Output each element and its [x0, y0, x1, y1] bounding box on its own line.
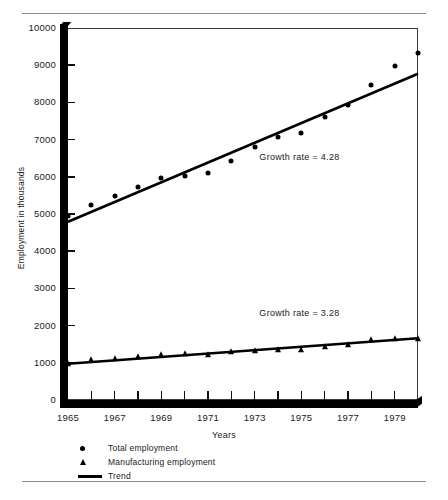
y-axis-title: Employment in thousands — [16, 158, 26, 278]
data-point-total-employment — [66, 213, 71, 218]
x-tick-mark — [161, 391, 163, 400]
y-tick-label: 5000 — [0, 208, 56, 220]
y-tick-label-text: 9000 — [6, 59, 56, 70]
data-point-manufacturing-employment — [298, 346, 304, 352]
legend-item: Trend — [78, 469, 338, 483]
x-tick-label: 1965 — [57, 412, 79, 423]
legend-key-circle — [78, 446, 108, 451]
x-tick-label: 1967 — [104, 412, 126, 423]
x-tick-label: 1977 — [337, 412, 359, 423]
y-tick-label-text: 10000 — [6, 22, 56, 33]
x-axis-bar — [60, 400, 418, 408]
y-tick-label-text: 3000 — [6, 282, 56, 293]
data-point-manufacturing-employment — [135, 353, 141, 359]
x-tick-mark — [137, 391, 139, 400]
y-tick-label: 7000 — [0, 134, 56, 146]
legend-item: Total employment — [78, 441, 338, 455]
data-point-manufacturing-employment — [368, 337, 374, 343]
data-point-manufacturing-employment — [322, 343, 328, 349]
data-point-total-employment — [252, 145, 257, 150]
data-point-manufacturing-employment — [205, 351, 211, 357]
data-point-total-employment — [206, 170, 211, 175]
y-tick-label: 3000 — [0, 282, 56, 294]
legend-triangle-marker-icon — [80, 459, 86, 465]
y-tick-label: 4000 — [0, 245, 56, 257]
x-tick-mark — [347, 391, 349, 400]
y-tick-label-text: 4000 — [6, 245, 56, 256]
y-tick-mark — [68, 64, 75, 66]
y-tick-mark — [68, 176, 75, 178]
x-tick-mark — [184, 391, 186, 400]
chart-legend: Total employmentManufacturing employment… — [78, 441, 338, 483]
plot-area-frame — [66, 28, 418, 400]
data-point-total-employment — [299, 131, 304, 136]
x-tick-mark — [254, 391, 256, 400]
legend-item-label: Manufacturing employment — [108, 457, 215, 467]
growth-rate-annotation: Growth rate = 4.28 — [259, 152, 339, 162]
data-point-total-employment — [159, 175, 164, 180]
x-tick-label: 1973 — [244, 412, 266, 423]
y-tick-mark — [68, 288, 75, 290]
x-tick-mark — [114, 391, 116, 400]
y-tick-mark — [68, 102, 75, 104]
y-tick-label: 0 — [0, 394, 56, 406]
x-tick-label: 1979 — [384, 412, 406, 423]
growth-rate-annotation: Growth rate = 3.28 — [259, 308, 339, 318]
x-tick-mark — [91, 391, 93, 400]
data-point-total-employment — [229, 159, 234, 164]
y-tick-mark — [68, 139, 75, 141]
data-point-manufacturing-employment — [345, 342, 351, 348]
data-point-manufacturing-employment — [158, 352, 164, 358]
x-tick-mark — [394, 391, 396, 400]
y-tick-label-text: 8000 — [6, 96, 56, 107]
legend-item-label: Trend — [108, 471, 131, 481]
y-tick-label: 1000 — [0, 357, 56, 369]
data-point-manufacturing-employment — [252, 347, 258, 353]
data-point-manufacturing-employment — [415, 335, 421, 341]
x-tick-mark — [301, 391, 303, 400]
data-point-manufacturing-employment — [275, 346, 281, 352]
employment-trend-chart: 0100020003000400050006000700080009000100… — [0, 0, 448, 500]
legend-circle-marker-icon — [80, 446, 85, 451]
y-tick-label: 9000 — [0, 59, 56, 71]
y-tick-label: 6000 — [0, 171, 56, 183]
data-point-total-employment — [182, 174, 187, 179]
data-point-total-employment — [89, 203, 94, 208]
y-tick-mark — [68, 250, 75, 252]
x-tick-label: 1969 — [150, 412, 172, 423]
data-point-total-employment — [322, 114, 327, 119]
y-tick-label-text: 5000 — [6, 208, 56, 219]
data-point-manufacturing-employment — [112, 355, 118, 361]
y-tick-label-text: 6000 — [6, 171, 56, 182]
legend-key-line — [78, 475, 108, 478]
data-point-manufacturing-employment — [182, 350, 188, 356]
x-tick-mark — [277, 391, 279, 400]
y-tick-mark — [68, 325, 75, 327]
x-tick-label: 1971 — [197, 412, 219, 423]
data-point-total-employment — [369, 82, 374, 87]
data-point-total-employment — [136, 185, 141, 190]
y-tick-label-text: 1000 — [6, 357, 56, 368]
legend-key-triangle — [78, 459, 108, 465]
data-point-total-employment — [346, 102, 351, 107]
x-tick-mark — [207, 391, 209, 400]
y-tick-label-text: 2000 — [6, 320, 56, 331]
legend-item-label: Total employment — [108, 443, 178, 453]
x-tick-label: 1975 — [290, 412, 312, 423]
y-tick-label: 10000 — [0, 22, 56, 34]
x-axis-title: Years — [0, 430, 448, 440]
data-point-manufacturing-employment — [65, 360, 71, 366]
data-point-total-employment — [416, 50, 421, 55]
y-tick-label-text: 0 — [6, 394, 56, 405]
legend-item: Manufacturing employment — [78, 455, 338, 469]
data-point-total-employment — [276, 134, 281, 139]
data-point-total-employment — [392, 64, 397, 69]
data-point-manufacturing-employment — [88, 356, 94, 362]
x-tick-mark — [231, 391, 233, 400]
y-tick-label-text: 7000 — [6, 134, 56, 145]
x-tick-mark — [371, 391, 373, 400]
data-point-total-employment — [112, 193, 117, 198]
data-point-manufacturing-employment — [392, 335, 398, 341]
data-point-manufacturing-employment — [228, 349, 234, 355]
x-tick-mark — [324, 391, 326, 400]
